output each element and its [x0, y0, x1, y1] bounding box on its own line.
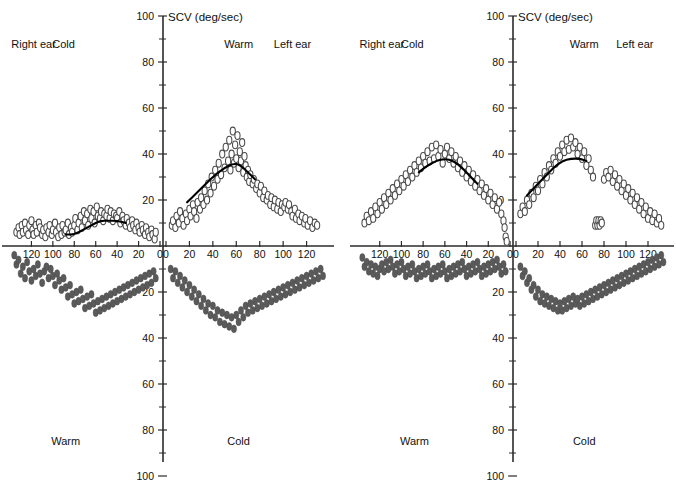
data-point-filled — [180, 284, 185, 292]
data-point-filled — [271, 288, 276, 296]
y-tick-label: 60 — [492, 378, 504, 390]
data-point-filled — [173, 267, 178, 275]
data-point-filled — [661, 258, 666, 266]
data-point-open — [599, 219, 604, 227]
data-point-open — [235, 132, 240, 140]
data-point-filled — [527, 274, 532, 282]
data-point-filled — [201, 295, 206, 303]
data-point-filled — [48, 265, 53, 273]
data-point-filled — [659, 251, 664, 259]
data-point-filled — [311, 277, 316, 285]
quadrant-label-cold-bottom: Cold — [573, 435, 596, 447]
data-point-open — [227, 136, 232, 144]
data-point-filled — [494, 256, 499, 264]
quadrant-label-warm-top: Warm — [570, 38, 599, 50]
data-point-filled — [168, 265, 173, 273]
series-0 — [362, 141, 509, 245]
data-point-open — [497, 198, 502, 206]
quadrant-label-right-ear: Right ear — [11, 38, 56, 50]
data-point-filled — [276, 286, 281, 294]
data-point-filled — [440, 261, 445, 269]
data-point-filled — [313, 267, 318, 275]
quadrant-label-cold-top: Cold — [52, 38, 75, 50]
data-point-filled — [227, 323, 232, 331]
data-point-filled — [292, 286, 297, 294]
data-point-open — [504, 238, 509, 246]
y-tick-label: 80 — [142, 56, 154, 68]
data-point-open — [225, 157, 230, 165]
data-point-filled — [278, 293, 283, 301]
x-tick-label-left: 40 — [111, 248, 123, 260]
data-point-filled — [283, 290, 288, 298]
y-tick-label: 40 — [492, 148, 504, 160]
data-point-filled — [78, 286, 83, 294]
x-tick-label-right: 0 — [163, 248, 169, 260]
data-point-filled — [206, 300, 211, 308]
quadrant-label-left-ear: Left ear — [274, 38, 312, 50]
data-point-filled — [229, 313, 234, 321]
quadrant-label-warm-bottom: Warm — [51, 435, 80, 447]
data-point-filled — [175, 279, 180, 287]
data-point-filled — [264, 300, 269, 308]
data-point-filled — [222, 320, 227, 328]
y-tick-label: 20 — [142, 194, 154, 206]
data-point-open — [590, 173, 595, 181]
data-point-filled — [89, 290, 94, 298]
data-point-open — [204, 196, 209, 204]
data-point-filled — [252, 297, 257, 305]
data-point-filled — [388, 256, 393, 264]
y-tick-label: 60 — [492, 102, 504, 114]
series-1 — [169, 127, 319, 231]
data-point-filled — [192, 286, 197, 294]
quadrant-label-cold-top: Cold — [401, 38, 424, 50]
data-point-filled — [245, 309, 250, 317]
data-point-open — [531, 194, 536, 202]
data-point-filled — [25, 258, 30, 266]
data-point-open — [315, 221, 320, 229]
data-point-filled — [67, 281, 72, 289]
data-point-open — [535, 187, 540, 195]
y-tick-label: 60 — [142, 102, 154, 114]
y-tick-label: 100 — [486, 470, 504, 482]
y-tick-label: 80 — [142, 424, 154, 436]
x-tick-label-left: 80 — [68, 248, 80, 260]
x-tick-label-left: 80 — [417, 248, 429, 260]
data-point-open — [223, 143, 228, 151]
data-point-filled — [55, 270, 60, 278]
data-point-filled — [189, 293, 194, 301]
x-tick-label-right: 40 — [554, 248, 566, 260]
data-point-filled — [22, 274, 27, 282]
data-point-filled — [306, 279, 311, 287]
data-point-open — [240, 139, 245, 147]
y-tick-label: 80 — [492, 56, 504, 68]
data-point-open — [211, 182, 216, 190]
data-point-filled — [203, 307, 208, 315]
data-point-open — [220, 150, 225, 158]
y-tick-label: 100 — [136, 470, 154, 482]
data-point-filled — [196, 290, 201, 298]
data-point-filled — [295, 277, 300, 285]
data-point-filled — [266, 290, 271, 298]
x-tick-label-right: 120 — [298, 248, 316, 260]
x-tick-label-left: 60 — [439, 248, 451, 260]
data-point-filled — [199, 302, 204, 310]
x-tick-label-right: 60 — [230, 248, 242, 260]
data-point-filled — [399, 258, 404, 266]
data-point-filled — [234, 311, 239, 319]
x-tick-label-right: 100 — [274, 248, 292, 260]
x-tick-label-left: 120 — [23, 248, 41, 260]
data-point-open — [659, 221, 664, 229]
data-point-filled — [61, 274, 66, 282]
quadrant-label-right-ear: Right ear — [360, 38, 405, 50]
data-point-filled — [410, 261, 415, 269]
data-point-filled — [184, 288, 189, 296]
y-tick-label: 20 — [492, 286, 504, 298]
axis-title: SCV (deg/sec) — [168, 11, 243, 23]
data-point-filled — [248, 300, 253, 308]
data-point-filled — [241, 313, 246, 321]
data-point-open — [242, 152, 247, 160]
data-point-filled — [302, 281, 307, 289]
panel-left-svg: 1008060402020406080100SCV (deg/sec)12010… — [0, 0, 340, 484]
data-point-filled — [304, 272, 309, 280]
chart-panel-left: 1008060402020406080100SCV (deg/sec)12010… — [0, 0, 340, 484]
